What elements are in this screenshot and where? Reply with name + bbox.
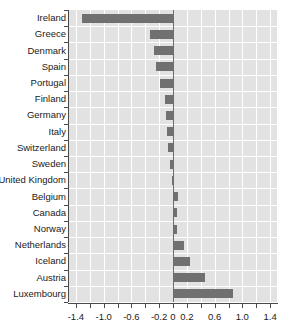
x-tick — [104, 304, 105, 308]
chart-title — [34, 0, 244, 2]
x-tick-label: 0.2 — [180, 311, 193, 322]
y-tick — [64, 107, 68, 108]
y-tick — [64, 237, 68, 238]
x-tick — [256, 304, 257, 308]
x-tick — [187, 304, 188, 308]
y-tick — [64, 270, 68, 271]
x-tick — [76, 304, 77, 308]
x-tick-label: 0.6 — [208, 311, 221, 322]
y-tick-label: Spain — [0, 62, 66, 72]
y-tick-label: United Kingdom — [0, 175, 66, 185]
y-tick — [64, 253, 68, 254]
y-tick — [64, 221, 68, 222]
x-tick — [201, 304, 202, 308]
y-tick — [64, 26, 68, 27]
y-tick-label: Germany — [0, 110, 66, 120]
x-tick — [118, 304, 119, 308]
y-tick-label: Iceland — [0, 256, 66, 266]
bar-greece — [150, 30, 173, 39]
bar-iceland — [173, 257, 190, 266]
y-tick — [64, 286, 68, 287]
bar-spain — [156, 62, 173, 71]
x-tick — [215, 304, 216, 308]
y-tick — [64, 172, 68, 173]
y-tick-label: Switzerland — [0, 143, 66, 153]
x-tick — [173, 304, 174, 308]
x-tick-label: 1.4 — [263, 311, 276, 322]
bar-portugal — [160, 79, 173, 88]
y-tick — [64, 10, 68, 11]
y-tick-label: Belgium — [0, 192, 66, 202]
y-tick — [64, 75, 68, 76]
x-tick — [242, 304, 243, 308]
y-tick — [64, 59, 68, 60]
x-tick — [270, 304, 271, 308]
y-tick — [64, 205, 68, 206]
x-tick-label: -0.6 — [123, 311, 139, 322]
bar-austria — [173, 273, 205, 282]
y-tick — [64, 302, 68, 303]
y-tick-label: Sweden — [0, 159, 66, 169]
y-tick — [64, 140, 68, 141]
zero-reference-line — [173, 10, 174, 302]
y-tick-label: Canada — [0, 208, 66, 218]
y-tick-label: Greece — [0, 29, 66, 39]
x-tick-label: 1.0 — [236, 311, 249, 322]
y-tick — [64, 188, 68, 189]
y-tick-label: Austria — [0, 273, 66, 283]
x-tick — [131, 304, 132, 308]
x-tick — [145, 304, 146, 308]
x-tick — [159, 304, 160, 308]
x-tick-label: -1.4 — [68, 311, 84, 322]
y-tick-label: Denmark — [0, 46, 66, 56]
y-tick-label: Portugal — [0, 78, 66, 88]
y-tick-label: Finland — [0, 94, 66, 104]
bar-ireland — [82, 14, 173, 23]
bar-luxembourg — [173, 289, 233, 298]
y-axis-line — [68, 10, 69, 302]
y-tick-label: Luxembourg — [0, 289, 66, 299]
y-tick-label: Netherlands — [0, 240, 66, 250]
y-tick — [64, 42, 68, 43]
plot-area — [69, 10, 277, 302]
y-tick — [64, 156, 68, 157]
x-tick-label: 0 — [170, 311, 175, 322]
x-tick-label: -0.2 — [151, 311, 167, 322]
y-tick-label: Ireland — [0, 13, 66, 23]
x-tick — [229, 304, 230, 308]
bar-finland — [165, 95, 173, 104]
y-tick — [64, 91, 68, 92]
y-tick-label: Norway — [0, 224, 66, 234]
bar-denmark — [154, 46, 173, 55]
bar-germany — [166, 111, 173, 120]
y-tick — [64, 124, 68, 125]
x-tick-label: -1.0 — [96, 311, 112, 322]
x-tick — [90, 304, 91, 308]
y-tick-label: Italy — [0, 127, 66, 137]
bar-chart: IrelandGreeceDenmarkSpainPortugalFinland… — [0, 0, 281, 333]
bar-netherlands — [173, 241, 184, 250]
